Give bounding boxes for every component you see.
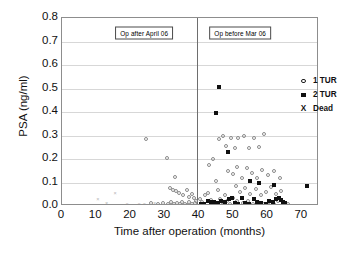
data-point [226,169,230,173]
data-point [257,181,261,185]
data-point [264,190,268,194]
legend-label: 1 TUR [313,74,337,88]
data-point [113,191,118,196]
data-point [165,156,169,160]
data-point [247,202,251,205]
data-point [255,176,259,180]
data-point [245,166,249,170]
data-point [228,202,232,205]
data-point [142,202,147,205]
x-tick-label: 70 [286,208,316,221]
data-point [252,136,256,140]
x-tick-label: 50 [217,208,247,221]
y-tick-label: 0.2 [24,152,58,163]
x-tick-label: 10 [80,208,110,221]
annotation-box: Op before Mar 06 [209,27,271,40]
x-axis-tick-labels: 010203040506070 [0,208,356,224]
filled-square-icon [299,88,308,102]
data-point [243,186,247,190]
data-point [240,196,244,200]
x-tick-label: 60 [252,208,282,221]
data-point [216,188,220,192]
data-point [242,134,246,138]
legend-item: 2 TUR [299,88,355,102]
data-point [259,201,263,205]
data-point [272,169,276,173]
y-tick-label: 0.7 [24,35,58,46]
gridline [62,112,317,113]
data-point [238,190,242,194]
x-tick-label: 40 [183,208,213,221]
data-point [224,144,228,148]
data-point [223,193,227,197]
legend-label: 2 TUR [313,88,337,102]
x-tick-label: 0 [46,208,76,221]
data-point [250,171,254,175]
data-point [185,188,189,192]
data-point [214,111,218,115]
data-point [236,202,240,205]
cross-icon: X [299,102,308,116]
data-point [181,193,185,197]
data-point [240,176,244,180]
y-tick-label: 0.5 [24,82,58,93]
data-point [254,187,258,191]
gridline [62,42,317,43]
y-tick-label: 0.4 [24,105,58,116]
data-point [247,146,251,150]
data-point [226,150,230,154]
data-point [161,201,165,205]
data-point [257,145,261,149]
data-point [231,172,235,176]
data-point [217,85,221,89]
legend-item: XDead [299,102,355,116]
data-point [229,136,233,140]
data-point [271,200,275,204]
data-point [125,201,130,205]
data-point [259,193,263,197]
x-axis-title: Time after operation (months) [61,225,318,237]
plot-area: Op after April 06Op before Mar 06 [61,17,318,205]
chart-figure: PSA (ng/ml) 0.80.70.60.50.40.30.20.10.0 … [0,0,356,263]
data-point [279,189,283,193]
data-point [152,201,157,205]
data-point [95,196,100,201]
data-point [211,157,215,161]
open-circle-icon [299,74,308,88]
data-point [206,191,210,195]
gridline [62,136,317,137]
gridline [62,65,317,66]
data-point [248,179,252,183]
data-point [207,163,211,167]
data-point [230,196,234,200]
legend-item: 1 TUR [299,74,355,88]
group-divider-line [197,18,198,204]
x-tick-label: 30 [149,208,179,221]
data-point [104,201,109,205]
data-point [202,202,206,205]
y-tick-label: 0.8 [24,11,58,22]
data-point [214,179,218,183]
gridline [62,89,317,90]
data-point [272,183,276,187]
data-point [262,132,266,136]
data-point [235,165,239,169]
data-point [283,201,287,205]
data-point [266,173,270,177]
data-point [234,184,238,188]
data-point [278,176,282,180]
y-tick-label: 0.6 [24,58,58,69]
x-tick-label: 20 [115,208,145,221]
data-point [173,175,177,179]
data-point [305,184,309,188]
data-point [236,136,240,140]
data-point [260,168,264,172]
data-point [217,137,221,141]
data-point [248,192,252,196]
y-tick-label: 0.1 [24,176,58,187]
data-point [221,134,225,138]
data-point [144,137,148,141]
y-tick-label: 0.3 [24,129,58,140]
data-point [233,146,237,150]
data-point [223,200,227,204]
